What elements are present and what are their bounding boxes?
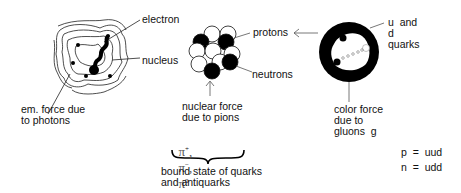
nucleus-dot-icon xyxy=(89,65,99,75)
label-nuclear-force-2: due to pions xyxy=(182,112,239,123)
label-quarks-3: quarks xyxy=(388,39,420,50)
electron-track-icon xyxy=(94,36,108,68)
label-bound-state-2: and antiquarks xyxy=(161,177,230,188)
label-nucleus: nucleus xyxy=(142,55,178,66)
label-neutrons: neutrons xyxy=(252,69,293,80)
label-color-force-3: gluons g xyxy=(334,126,377,137)
pion-plus: π+ xyxy=(179,144,190,159)
nucleus-cluster-icon xyxy=(189,26,240,79)
proton-formula: p = uud xyxy=(401,147,442,158)
label-protons: protons xyxy=(253,27,288,38)
proton-quarks-icon xyxy=(319,22,384,102)
label-electron: electron xyxy=(142,14,179,25)
neutron-formula: n = udd xyxy=(401,162,442,173)
label-em-force-2: to photons xyxy=(21,115,70,126)
